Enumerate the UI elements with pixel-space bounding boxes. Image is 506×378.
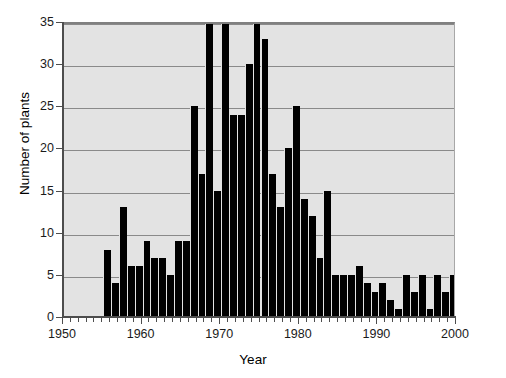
x-tick-mark-minor (431, 318, 432, 322)
bar (339, 275, 347, 317)
x-tick-mark-minor (211, 318, 212, 322)
bar (308, 216, 316, 317)
x-tick-mark-minor (400, 318, 401, 322)
x-tick-mark-minor (235, 318, 236, 322)
x-tick-mark-major (62, 318, 63, 324)
x-tick-mark-major (298, 318, 299, 324)
x-tick-label: 1970 (189, 327, 249, 341)
y-tick-mark (56, 22, 62, 23)
bar (331, 275, 339, 317)
bar (284, 148, 292, 317)
x-tick-mark-minor (78, 318, 79, 322)
bar (190, 106, 198, 317)
x-tick-mark-minor (196, 318, 197, 322)
y-tick-mark (56, 106, 62, 107)
x-tick-mark-minor (188, 318, 189, 322)
bar (245, 64, 253, 317)
x-tick-mark-minor (384, 318, 385, 322)
x-tick-mark-major (219, 318, 220, 324)
bar (143, 241, 151, 317)
plants-per-year-bar-chart: 05101520253035 195019601970198019902000 … (0, 0, 506, 378)
bar (449, 275, 455, 317)
bar (371, 292, 379, 317)
x-tick-mark-minor (439, 318, 440, 322)
bar (316, 258, 324, 317)
bar (261, 39, 269, 317)
bar (119, 207, 127, 317)
bar (253, 22, 261, 317)
x-tick-label: 1990 (346, 327, 406, 341)
x-tick-label: 1980 (268, 327, 328, 341)
bar (363, 283, 371, 317)
x-tick-mark-minor (148, 318, 149, 322)
bar (237, 115, 245, 317)
x-tick-label: 1960 (111, 327, 171, 341)
bar (150, 258, 158, 317)
bar (213, 191, 221, 317)
x-tick-mark-minor (133, 318, 134, 322)
y-tick-mark (56, 64, 62, 65)
x-tick-mark-minor (266, 318, 267, 322)
bar (229, 115, 237, 317)
x-tick-mark-minor (408, 318, 409, 322)
bar (276, 207, 284, 317)
y-tick-label: 0 (14, 311, 54, 323)
y-tick-label: 35 (14, 16, 54, 28)
x-tick-mark-minor (251, 318, 252, 322)
x-tick-mark-minor (314, 318, 315, 322)
x-tick-mark-minor (101, 318, 102, 322)
bar (268, 174, 276, 317)
bar (418, 275, 426, 317)
x-tick-mark-minor (369, 318, 370, 322)
x-tick-mark-minor (117, 318, 118, 322)
bar (300, 199, 308, 317)
x-tick-mark-minor (93, 318, 94, 322)
bar (174, 241, 182, 317)
x-tick-mark-minor (86, 318, 87, 322)
x-tick-mark-minor (416, 318, 417, 322)
bar (158, 258, 166, 317)
x-tick-mark-minor (203, 318, 204, 322)
bar (433, 275, 441, 317)
x-tick-mark-major (455, 318, 456, 324)
x-tick-mark-minor (243, 318, 244, 322)
x-tick-mark-minor (125, 318, 126, 322)
bar (355, 266, 363, 317)
x-tick-mark-minor (321, 318, 322, 322)
x-tick-mark-minor (392, 318, 393, 322)
x-tick-label: 2000 (425, 327, 485, 341)
x-tick-mark-minor (337, 318, 338, 322)
x-tick-mark-minor (345, 318, 346, 322)
x-tick-mark-minor (109, 318, 110, 322)
bar (292, 106, 300, 317)
x-tick-mark-minor (306, 318, 307, 322)
x-tick-mark-minor (259, 318, 260, 322)
bar (166, 275, 174, 317)
x-tick-mark-minor (447, 318, 448, 322)
y-axis-line (62, 22, 64, 318)
bar (402, 275, 410, 317)
bar (127, 266, 135, 317)
y-axis-title: Number of plants (17, 54, 32, 234)
x-tick-label: 1950 (32, 327, 92, 341)
bar (323, 191, 331, 317)
bar (111, 283, 119, 317)
y-tick-mark (56, 275, 62, 276)
x-tick-mark-minor (164, 318, 165, 322)
x-tick-mark-minor (180, 318, 181, 322)
x-tick-mark-minor (361, 318, 362, 322)
bar (135, 266, 143, 317)
bar (205, 22, 213, 317)
x-tick-mark-major (141, 318, 142, 324)
bar (386, 300, 394, 317)
bars-layer (64, 24, 454, 317)
x-tick-mark-minor (290, 318, 291, 322)
x-tick-mark-minor (282, 318, 283, 322)
x-tick-mark-minor (70, 318, 71, 322)
bar (441, 292, 449, 317)
x-axis-title: Year (0, 352, 506, 367)
bar (347, 275, 355, 317)
x-tick-mark-minor (329, 318, 330, 322)
x-tick-mark-minor (227, 318, 228, 322)
x-tick-mark-major (376, 318, 377, 324)
